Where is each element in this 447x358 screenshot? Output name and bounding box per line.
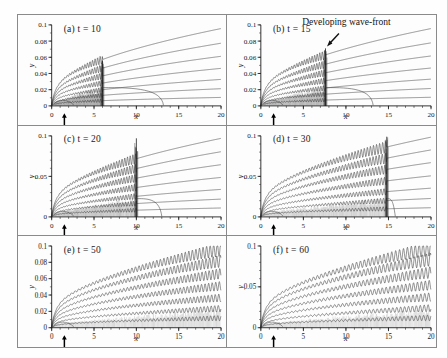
svg-text:0: 0 [259,222,263,230]
svg-text:5: 5 [302,333,306,341]
svg-text:0.04: 0.04 [35,70,48,78]
svg-text:0.1: 0.1 [247,132,256,140]
svg-text:y: y [27,174,36,179]
plot-area-a: 0510152000.020.040.060.080.1xy [18,15,226,125]
svg-text:0: 0 [50,111,54,119]
svg-text:0: 0 [50,222,54,230]
panel-label-d: (d) t = 30 [273,134,311,144]
svg-text:0.06: 0.06 [35,276,48,284]
svg-text:x: x [343,112,348,121]
svg-text:0.06: 0.06 [244,54,257,62]
svg-text:5: 5 [92,111,96,119]
svg-text:x: x [343,223,348,232]
svg-text:20: 20 [427,222,435,230]
plot-area-d: 0510152000.050.1xy [227,126,436,236]
panel-label-e: (e) t = 50 [64,245,101,255]
svg-text:0: 0 [44,102,48,110]
svg-text:0.1: 0.1 [38,21,47,29]
panel-c: 0510152000.050.1xy (c) t = 20 [18,126,227,237]
svg-text:y: y [27,63,36,68]
plot-area-f: 0510152000.050.1xy [227,236,436,347]
svg-text:0: 0 [253,325,257,333]
svg-text:0: 0 [44,325,48,333]
panel-e: 0510152000.020.040.060.080.1xy (e) t = 5… [18,236,227,347]
svg-text:0.05: 0.05 [35,173,48,181]
svg-text:0.02: 0.02 [244,86,257,94]
svg-text:5: 5 [302,111,306,119]
panel-f: 0510152000.050.1xy (f) t = 60 [227,236,436,347]
svg-text:20: 20 [427,333,435,341]
svg-text:y: y [27,285,36,290]
panel-d: 0510152000.050.1xy (d) t = 30 [227,126,436,237]
svg-text:0.05: 0.05 [244,173,257,181]
svg-text:0: 0 [44,213,48,221]
svg-text:15: 15 [385,222,393,230]
svg-text:15: 15 [385,111,393,119]
svg-text:0: 0 [50,333,54,341]
panel-grid: 0510152000.020.040.060.080.1xy (a) t = 1… [17,14,437,348]
svg-text:0: 0 [253,213,257,221]
svg-text:0.06: 0.06 [35,54,48,62]
panel-b: 0510152000.020.040.060.080.1xy (b) t = 1… [227,15,436,126]
svg-text:20: 20 [427,111,435,119]
svg-text:y: y [236,63,245,68]
svg-text:0: 0 [253,102,257,110]
svg-text:15: 15 [175,111,183,119]
svg-text:0.02: 0.02 [35,86,48,94]
svg-text:x: x [134,112,139,121]
svg-text:0.04: 0.04 [35,292,48,300]
svg-text:0.08: 0.08 [35,259,48,267]
plot-area-b: 0510152000.020.040.060.080.1xy [227,15,436,125]
svg-text:0.02: 0.02 [35,308,48,316]
svg-text:0: 0 [259,333,263,341]
svg-text:y: y [236,174,245,179]
svg-text:15: 15 [385,333,393,341]
svg-text:20: 20 [217,111,225,119]
svg-text:0.1: 0.1 [38,132,47,140]
panel-label-c: (c) t = 20 [64,134,101,144]
svg-text:0.08: 0.08 [35,38,48,46]
svg-text:x: x [343,334,348,343]
plot-area-e: 0510152000.020.040.060.080.1xy [18,236,226,347]
svg-text:0.05: 0.05 [244,284,257,292]
svg-text:0.1: 0.1 [38,243,47,251]
svg-text:5: 5 [92,222,96,230]
svg-text:20: 20 [217,333,225,341]
svg-text:x: x [134,334,139,343]
svg-text:x: x [134,223,139,232]
panel-label-f: (f) t = 60 [273,245,309,255]
svg-text:5: 5 [302,222,306,230]
svg-text:0.08: 0.08 [244,38,257,46]
svg-text:0.1: 0.1 [247,21,256,29]
figure-root: 0510152000.020.040.060.080.1xy (a) t = 1… [0,0,447,358]
plot-area-c: 0510152000.050.1xy [18,126,226,236]
svg-text:15: 15 [175,222,183,230]
svg-text:20: 20 [217,222,225,230]
panel-a: 0510152000.020.040.060.080.1xy (a) t = 1… [18,15,227,126]
svg-text:15: 15 [175,333,183,341]
svg-text:5: 5 [92,333,96,341]
svg-text:y: y [236,285,245,290]
svg-text:0.04: 0.04 [244,70,257,78]
svg-text:0: 0 [259,111,263,119]
svg-text:0.1: 0.1 [247,243,256,251]
panel-label-a: (a) t = 10 [64,24,101,34]
wave-front-annotation: Developing wave-front [302,17,390,27]
